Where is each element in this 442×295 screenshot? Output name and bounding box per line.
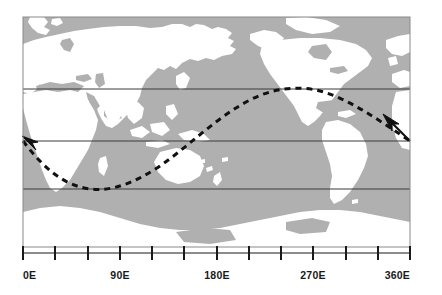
axis-label-360e: 360E <box>385 269 410 281</box>
axis-tick-labels: 0E 90E 180E 270E 360E <box>23 269 410 281</box>
axis-label-90e: 90E <box>110 269 129 281</box>
axis-label-180e: 180E <box>204 269 229 281</box>
longitude-axis: 0E 90E 180E 270E 360E <box>23 246 410 281</box>
map-panel <box>22 17 410 247</box>
map-svg: 0E 90E 180E 270E 360E <box>0 0 442 295</box>
map-figure: 0E 90E 180E 270E 360E <box>0 0 442 295</box>
axis-label-270e: 270E <box>300 269 325 281</box>
axis-label-0e: 0E <box>23 269 36 281</box>
